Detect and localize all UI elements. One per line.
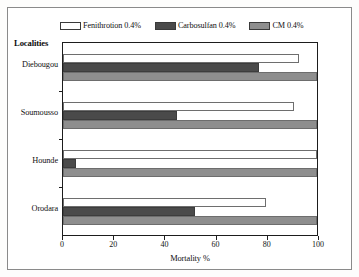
bar-group-soumousso <box>63 91 317 139</box>
bar-row-cm-hounde <box>63 168 317 177</box>
y-tick-label-soumousso: Soumousso <box>21 108 58 117</box>
bar-row-carbosulfan-hounde <box>63 159 317 168</box>
bar-row-carbosulfan-soumousso <box>63 111 317 120</box>
legend-swatch-carbosulfan-icon <box>155 22 176 30</box>
bar-row-carbosulfan-orodara <box>63 207 317 216</box>
chart-legend: Fenithrotion 0.4% Carbosulfan 0.4% CM 0.… <box>60 19 340 32</box>
bar-cm-orodara <box>63 216 317 225</box>
bar-row-cm-soumousso <box>63 120 317 129</box>
bar-group-diebougou <box>63 43 317 91</box>
bar-row-fenithrotion-hounde <box>63 150 317 159</box>
x-tick-label-100: 100 <box>312 240 324 249</box>
bar-cm-soumousso <box>63 120 317 129</box>
bar-fenithrotion-diebougou <box>63 54 299 63</box>
y-tick-mark <box>59 139 63 140</box>
bar-row-fenithrotion-soumousso <box>63 102 317 111</box>
bar-row-cm-orodara <box>63 216 317 225</box>
x-tick-label-0: 0 <box>60 240 64 249</box>
y-tick-mark <box>59 91 63 92</box>
legend-swatch-cm-icon <box>249 22 270 30</box>
legend-label-fenithrotion: Fenithrotion 0.4% <box>83 21 141 30</box>
bar-row-carbosulfan-diebougou <box>63 63 317 72</box>
y-tick-label-orodara: Orodara <box>32 204 58 213</box>
y-tick-label-diebougou: Diebougou <box>22 60 58 69</box>
legend-swatch-fenithrotion-icon <box>60 22 81 30</box>
bar-row-cm-diebougou <box>63 72 317 81</box>
bar-carbosulfan-hounde <box>63 159 76 168</box>
bar-fenithrotion-soumousso <box>63 102 294 111</box>
bar-cm-hounde <box>63 168 317 177</box>
legend-item-cm: CM 0.4% <box>249 21 303 30</box>
legend-item-carbosulfan: Carbosulfan 0.4% <box>155 21 236 30</box>
bar-carbosulfan-diebougou <box>63 63 259 72</box>
x-tick-label-20: 20 <box>109 240 117 249</box>
x-tick-label-40: 40 <box>160 240 168 249</box>
legend-label-cm: CM 0.4% <box>272 21 303 30</box>
y-axis-tick-labels: Diebougou Soumousso Hounde Orodara <box>0 42 58 236</box>
bar-group-orodara <box>63 187 317 235</box>
bar-carbosulfan-orodara <box>63 207 195 216</box>
x-axis-tick-labels: 020406080100 <box>62 240 318 252</box>
bar-group-hounde <box>63 139 317 187</box>
bar-fenithrotion-hounde <box>63 150 317 159</box>
x-tick-label-60: 60 <box>212 240 220 249</box>
plot-area <box>62 42 318 236</box>
legend-item-fenithrotion: Fenithrotion 0.4% <box>60 21 141 30</box>
bar-row-fenithrotion-orodara <box>63 198 317 207</box>
bar-row-fenithrotion-diebougou <box>63 54 317 63</box>
y-tick-label-hounde: Hounde <box>32 156 58 165</box>
bar-cm-diebougou <box>63 72 317 81</box>
legend-label-carbosulfan: Carbosulfan 0.4% <box>178 21 236 30</box>
y-tick-mark <box>59 187 63 188</box>
bar-carbosulfan-soumousso <box>63 111 177 120</box>
x-tick-label-80: 80 <box>263 240 271 249</box>
figure: Fenithrotion 0.4% Carbosulfan 0.4% CM 0.… <box>0 0 359 277</box>
bar-fenithrotion-orodara <box>63 198 266 207</box>
x-axis-title: Mortality % <box>62 254 318 263</box>
